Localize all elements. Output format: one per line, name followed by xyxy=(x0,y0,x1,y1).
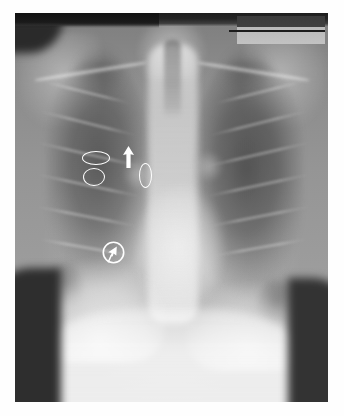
film-grain-overlay xyxy=(15,13,328,402)
annotation-circled-cursor-arrow-icon xyxy=(101,241,126,266)
annotation-arrow-up-icon xyxy=(122,146,135,168)
chest-radiograph-image xyxy=(15,13,328,402)
annotation-vertical-ellipse-icon xyxy=(139,163,152,188)
annotation-circle-icon xyxy=(83,168,105,186)
screenshot-root xyxy=(0,0,344,416)
annotation-horizontal-ellipse-icon xyxy=(82,151,110,165)
